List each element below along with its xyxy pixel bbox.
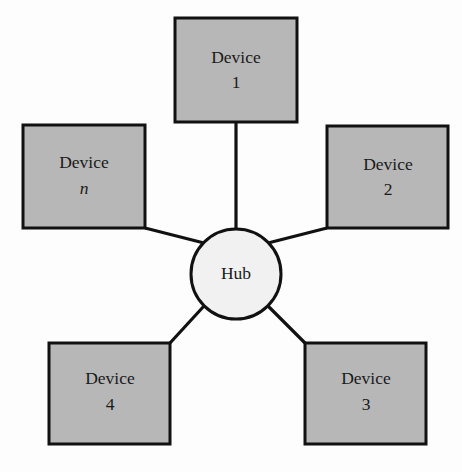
device-n-label-line2: n (80, 178, 89, 198)
node-device-4[interactable]: Device 4 (49, 343, 170, 444)
link-hub-device-n (145, 228, 204, 243)
device-1-label-line2: 1 (232, 72, 241, 92)
device-2-label-line2: 2 (384, 179, 393, 199)
device-3-label-line1: Device (341, 368, 391, 388)
device-4-label-line2: 4 (106, 394, 115, 414)
device-1-label-line1: Device (211, 47, 261, 67)
link-hub-device-4 (170, 306, 204, 343)
node-device-3[interactable]: Device 3 (305, 343, 426, 444)
device-1-box[interactable] (175, 18, 297, 122)
star-topology-diagram: Device 1 Device 2 Device 3 Device 4 Devi… (0, 0, 462, 472)
device-n-label-line1: Device (59, 152, 109, 172)
device-4-label-line1: Device (85, 368, 135, 388)
topology-canvas: Device 1 Device 2 Device 3 Device 4 Devi… (0, 0, 462, 472)
device-3-label-line2: 3 (362, 394, 371, 414)
hub-label: Hub (221, 263, 251, 283)
device-n-box[interactable] (23, 125, 145, 228)
link-hub-device-3 (268, 306, 305, 343)
node-device-n[interactable]: Device n (23, 125, 145, 228)
device-2-label-line1: Device (363, 154, 413, 174)
node-hub[interactable]: Hub (191, 229, 281, 319)
link-hub-device-2 (268, 228, 327, 243)
node-device-2[interactable]: Device 2 (327, 126, 448, 228)
device-2-box[interactable] (327, 126, 448, 228)
node-device-1[interactable]: Device 1 (175, 18, 297, 122)
